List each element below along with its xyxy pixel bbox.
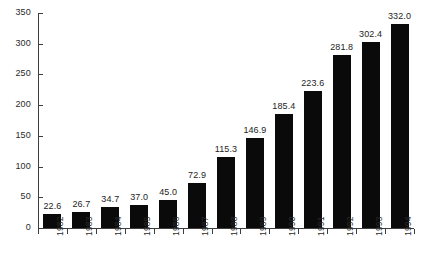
x-axis-tick (154, 229, 155, 234)
bar (275, 114, 293, 228)
bar-value-label: 281.8 (322, 43, 362, 52)
y-axis-label-slot: 50 (0, 197, 34, 198)
y-axis-tick-label: 150 (0, 131, 31, 140)
x-axis-tick-label: 1986 (172, 216, 181, 236)
y-axis-tick-label: 200 (0, 100, 31, 109)
x-axis-tick (212, 229, 213, 234)
bar-chart: 050100150200250300350 22.626.734.737.045… (0, 0, 421, 269)
x-axis-tick-label: 1994 (404, 216, 413, 236)
bar (362, 42, 380, 228)
y-axis-label-slot: 100 (0, 167, 34, 168)
y-axis-tick-label: 0 (0, 223, 31, 232)
x-axis-tick (385, 229, 386, 234)
x-axis-tick-label: 1984 (114, 216, 123, 236)
bar-value-label: 115.3 (206, 145, 246, 154)
x-axis-tick-label: 1991 (317, 216, 326, 236)
y-axis-tick-label: 300 (0, 39, 31, 48)
x-axis-tick-label: 1990 (288, 216, 297, 236)
y-axis-label-slot: 350 (0, 13, 34, 14)
x-axis-tick-label: 1993 (375, 216, 384, 236)
x-axis-tick (38, 229, 39, 234)
x-axis-tick (414, 229, 415, 234)
bar (391, 24, 409, 228)
bar-value-label: 223.6 (293, 79, 333, 88)
x-axis-tick-label: 1992 (346, 216, 355, 236)
y-axis-tick-label: 250 (0, 69, 31, 78)
bar-value-label: 185.4 (264, 102, 304, 111)
y-axis-tick-label: 50 (0, 192, 31, 201)
y-axis-label-slot: 250 (0, 74, 34, 75)
bar (304, 91, 322, 228)
bar (246, 138, 264, 228)
x-axis-tick-label: 1983 (85, 216, 94, 236)
x-axis-tick (67, 229, 68, 234)
x-axis-tick-label: 1987 (201, 216, 210, 236)
x-axis-tick (269, 229, 270, 234)
x-axis-tick (356, 229, 357, 234)
bar (333, 55, 351, 228)
x-axis-tick (298, 229, 299, 234)
x-axis-tick-label: 1985 (143, 216, 152, 236)
x-axis-tick-label: 1988 (230, 216, 239, 236)
y-axis-tick-label: 350 (0, 8, 31, 17)
x-axis-tick (183, 229, 184, 234)
y-axis-label-slot: 0 (0, 228, 34, 229)
x-axis-tick-label: 1989 (259, 216, 268, 236)
bar-value-label: 332.0 (380, 12, 420, 21)
x-axis-tick-label: 1982 (56, 216, 65, 236)
x-axis-line (38, 228, 414, 229)
bar-value-label: 302.4 (351, 30, 391, 39)
y-axis-label-slot: 200 (0, 105, 34, 106)
y-axis-label-slot: 150 (0, 136, 34, 137)
bar-value-label: 146.9 (235, 126, 275, 135)
y-axis-label-slot: 300 (0, 44, 34, 45)
bar-value-label: 45.0 (148, 188, 188, 197)
x-axis-tick (240, 229, 241, 234)
y-axis-tick-label: 100 (0, 162, 31, 171)
x-axis-tick (327, 229, 328, 234)
bar-value-label: 72.9 (177, 171, 217, 180)
x-axis-tick (125, 229, 126, 234)
x-axis-tick (96, 229, 97, 234)
